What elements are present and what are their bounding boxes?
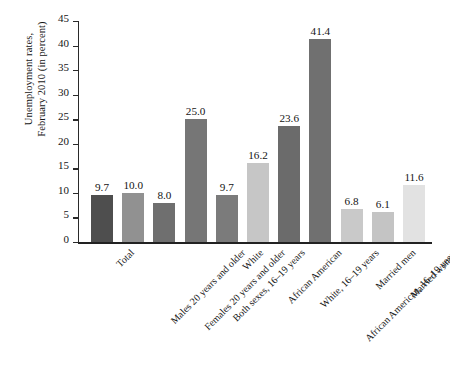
- bar: 25.0: [185, 119, 207, 242]
- bar: 11.6: [403, 185, 425, 242]
- bar: 23.6: [278, 126, 300, 242]
- x-axis-category-label: Total: [114, 247, 136, 269]
- bar-value-label: 10.0: [123, 179, 143, 191]
- bar-value-label: 6.1: [376, 198, 390, 210]
- y-axis-tick-label: 5: [64, 209, 70, 220]
- bar: 41.4: [309, 39, 331, 242]
- y-axis-tick-label: 0: [64, 234, 70, 245]
- y-axis-line: [78, 21, 79, 243]
- unemployment-bar-chart: Unemployment rates, February 2010 (in pe…: [0, 0, 450, 378]
- bar-value-label: 11.6: [404, 171, 423, 183]
- y-axis-tick-label: 30: [58, 87, 69, 98]
- y-axis-tick: 0: [73, 242, 78, 243]
- x-axis-line: [78, 242, 432, 244]
- bar: 6.1: [372, 212, 394, 242]
- y-axis-tick: 10: [73, 193, 78, 194]
- bar: 8.0: [153, 203, 175, 242]
- bar: 16.2: [247, 163, 269, 243]
- y-axis-tick-label: 15: [58, 160, 69, 171]
- y-axis-title: Unemployment rates, February 2010 (in pe…: [22, 0, 56, 164]
- bar: 10.0: [122, 193, 144, 242]
- bar-value-label: 25.0: [186, 105, 206, 117]
- y-axis-tick: 40: [73, 46, 78, 47]
- y-axis-tick-label: 10: [58, 185, 69, 196]
- bar-value-label: 8.0: [157, 189, 171, 201]
- y-axis-tick: 35: [73, 70, 78, 71]
- bar: 9.7: [91, 195, 113, 243]
- bar-value-label: 16.2: [248, 149, 268, 161]
- plot-area: 051015202530354045 9.710.08.025.09.716.2…: [78, 21, 432, 243]
- y-axis-tick: 25: [73, 119, 78, 120]
- y-axis-tick-label: 45: [58, 13, 69, 24]
- bar-value-label: 9.7: [220, 181, 234, 193]
- y-axis-title-line-2: February 2010 (in percent): [35, 0, 48, 164]
- y-axis-tick: 45: [73, 21, 78, 22]
- y-axis-tick: 15: [73, 168, 78, 169]
- bar-value-label: 6.8: [345, 195, 359, 207]
- y-axis-tick-label: 40: [58, 38, 69, 49]
- y-axis-tick: 30: [73, 95, 78, 96]
- y-axis-tick: 20: [73, 144, 78, 145]
- y-axis-tick-label: 20: [58, 136, 69, 147]
- y-axis-tick: 5: [73, 217, 78, 218]
- y-axis-tick-label: 25: [58, 111, 69, 122]
- y-axis-tick-label: 35: [58, 62, 69, 73]
- y-axis-title-line-1: Unemployment rates,: [23, 33, 34, 125]
- bar: 6.8: [341, 209, 363, 242]
- bar-value-label: 41.4: [311, 25, 331, 37]
- bar-value-label: 23.6: [279, 112, 299, 124]
- bar: 9.7: [216, 195, 238, 243]
- bar-value-label: 9.7: [95, 181, 109, 193]
